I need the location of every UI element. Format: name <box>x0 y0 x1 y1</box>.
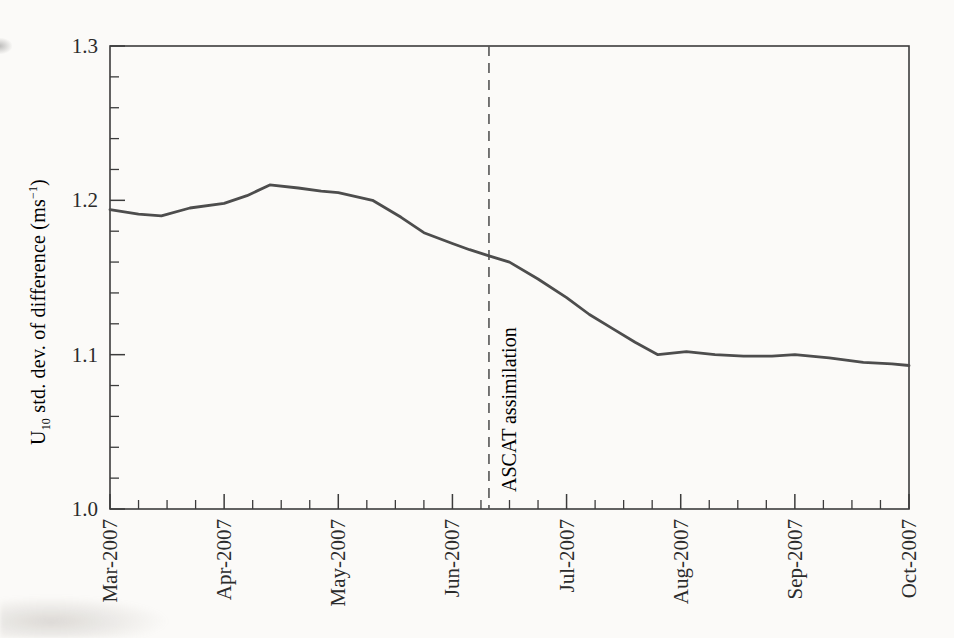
y-axis-title: U10 std. dev. of difference (ms−1) <box>26 179 54 445</box>
x-tick-label: Jul-2007 <box>555 519 579 593</box>
y-axis-title-subscript: 10 <box>39 418 53 430</box>
y-axis-title-post: ) <box>27 179 49 186</box>
y-tick-label: 1.1 <box>72 343 98 367</box>
y-tick-label: 1.0 <box>72 497 98 521</box>
x-tick-label: Aug-2007 <box>669 519 693 604</box>
ascat-assimilation-label: ASCAT assimilation <box>498 327 521 492</box>
y-axis-title-superscript: −1 <box>26 186 40 199</box>
x-tick-label: Mar-2007 <box>98 519 122 603</box>
chart-canvas: 1.01.11.21.3Mar-2007Apr-2007May-2007Jun-… <box>0 0 954 638</box>
y-tick-label: 1.3 <box>72 34 98 58</box>
x-tick-label: Sep-2007 <box>783 519 807 600</box>
y-tick-label: 1.2 <box>72 188 98 212</box>
y-axis-title-pre: U <box>27 430 49 445</box>
x-tick-label: Oct-2007 <box>897 519 921 598</box>
x-tick-label: May-2007 <box>326 519 350 607</box>
x-tick-label: Jun-2007 <box>440 519 464 597</box>
x-tick-label: Apr-2007 <box>212 519 236 600</box>
figure: 1.01.11.21.3Mar-2007Apr-2007May-2007Jun-… <box>0 0 954 638</box>
y-axis-title-mid: std. dev. of difference (ms <box>27 199 49 418</box>
